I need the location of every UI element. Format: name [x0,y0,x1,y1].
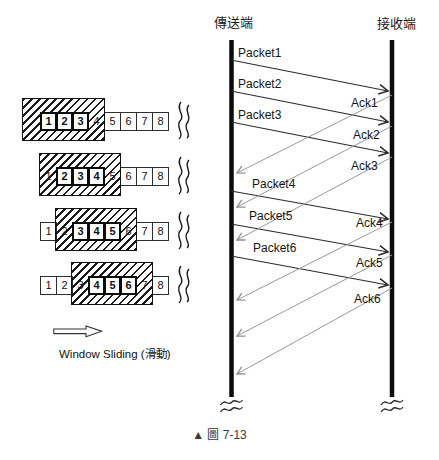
ack4-label: Ack4 [356,216,383,230]
frame-slot-4: 4 [88,222,105,241]
ack5-label: Ack5 [356,256,383,270]
tape-break-squiggle [172,210,196,250]
frame-slot-3: 3 [72,167,89,186]
figure-sliding-window-diagram: 12345678 12345678 12345678 12345678 Wind… [0,0,439,460]
frame-slot-1: 1 [40,276,57,295]
sender-line-break-squiggle [221,400,243,412]
frame-slot-7: 7 [136,222,153,241]
frame-slot-3: 3 [72,222,89,241]
packet4-label: Packet4 [252,177,296,191]
ack2-label: Ack2 [353,128,380,142]
frame-slot-3: 3 [72,112,89,131]
frame-slot-6: 6 [120,167,137,186]
frame-slot-6: 6 [120,276,137,295]
frame-slot-2: 2 [56,112,73,131]
tape-break-squiggle [172,264,196,304]
frame-slot-1: 1 [40,112,57,131]
ack3-label: Ack3 [351,159,378,173]
ack6-label: Ack6 [354,292,381,306]
frame-slot-4: 4 [88,167,105,186]
packet3-label: Packet3 [238,108,282,122]
packet6-label: Packet6 [253,241,297,255]
receiver-line-break-squiggle [381,400,403,412]
frame-slot-8: 8 [152,222,169,241]
frame-slot-8: 8 [152,112,169,131]
frame-slot-7: 7 [136,167,153,186]
frame-slot-5: 5 [104,276,121,295]
packet2-label: Packet2 [238,77,282,91]
frame-slot-8: 8 [152,167,169,186]
ack1-label: Ack1 [351,96,378,110]
frame-slot-5: 5 [104,222,121,241]
packet5-label: Packet5 [249,209,293,223]
sender-label: 傳送端 [214,15,253,30]
frame-slot-6: 6 [120,112,137,131]
packet1-label: Packet1 [238,46,282,60]
frame-slot-8: 8 [152,276,169,295]
frame-slot-4: 4 [88,276,105,295]
frame-slot-2: 2 [56,167,73,186]
receiver-label: 接收端 [377,16,416,31]
frame-slot-5: 5 [104,112,121,131]
frame-slot-7: 7 [136,112,153,131]
tape-break-squiggle [172,155,196,195]
tape-break-squiggle [172,100,196,140]
